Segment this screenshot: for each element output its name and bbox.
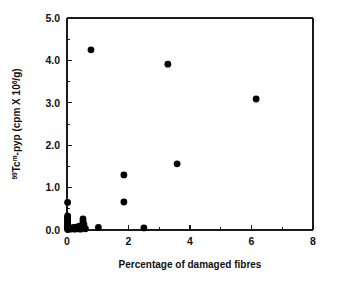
y-tick-label: 3.0 [45,97,60,109]
plot-axes [67,18,313,230]
tick-marks [67,18,313,230]
chart-figure: 024680.01.02.03.04.05.0 Percentage of da… [0,0,337,283]
x-tick-label: 4 [187,235,193,247]
y-tick-label: 5.0 [45,12,60,24]
y-tick-label: 0.0 [45,224,60,236]
x-tick-label: 0 [64,235,70,247]
y-tick-label: 2.0 [45,139,60,151]
data-point [120,199,127,206]
data-point [64,199,71,206]
data-point [95,224,102,231]
scatter-plot: 024680.01.02.03.04.05.0 Percentage of da… [0,0,337,283]
x-axis-label: Percentage of damaged fibres [119,259,262,270]
data-point [174,160,181,167]
y-axis-label-text: 99Tcm-pyp (cpm X 106/g) [11,68,22,179]
data-point [140,224,147,231]
x-tick-label: 2 [126,235,132,247]
tick-labels: 024680.01.02.03.04.05.0 [45,12,316,247]
data-point [253,96,260,103]
data-point [88,46,95,53]
y-axis-label: 99Tcm-pyp (cpm X 106/g) [11,68,22,179]
y-tick-label: 4.0 [45,54,60,66]
y-tick-label: 1.0 [45,181,60,193]
x-tick-label: 6 [249,235,255,247]
x-tick-label: 8 [310,235,316,247]
data-point [120,171,127,178]
data-points [64,46,259,233]
data-point [164,61,171,68]
data-point [82,225,89,232]
